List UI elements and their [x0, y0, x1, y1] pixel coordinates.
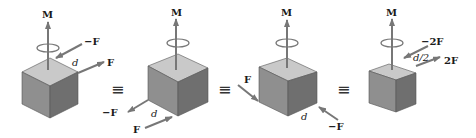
panel-3: M F −F d	[238, 7, 343, 132]
cube	[148, 54, 208, 116]
moment-label: M	[171, 7, 182, 18]
moment-label: M	[386, 7, 397, 18]
panel-2: M −F F d	[102, 7, 208, 135]
force-label-neg: −F	[102, 107, 117, 118]
moment-arrow	[381, 19, 403, 70]
force-label-neg: −F	[328, 121, 343, 132]
panel-1: M −F F d	[22, 9, 114, 118]
force-arrow-neg	[56, 44, 82, 58]
force-label-pos: F	[244, 74, 251, 85]
equivalence-symbol: ≡	[218, 80, 231, 99]
force-arrow-neg	[319, 107, 338, 120]
force-label-neg: −2F	[421, 36, 443, 47]
distance-label: d	[301, 111, 307, 122]
force-label-pos: 2F	[444, 55, 458, 66]
force-label-pos: F	[107, 57, 114, 68]
panel-4: M −2F 2F d/2	[369, 7, 458, 112]
force-arrow-pos	[238, 85, 258, 101]
force-label-neg: −F	[84, 36, 99, 47]
force-arrow-pos	[145, 117, 172, 128]
moment-label: M	[42, 9, 53, 20]
force-arrow-neg	[128, 100, 148, 112]
cube	[369, 64, 416, 112]
equivalence-symbol: ≡	[111, 80, 124, 99]
distance-label: d/2	[413, 52, 429, 63]
distance-label: d	[72, 57, 78, 68]
force-label-pos: F	[133, 124, 140, 135]
equivalence-symbol: ≡	[337, 80, 350, 99]
moment-label: M	[281, 7, 292, 18]
equivalent-couples-diagram: M −F F d ≡ M −F F d ≡	[0, 0, 476, 138]
rotation-icon	[167, 39, 189, 47]
cube	[22, 58, 78, 118]
force-arrow-pos	[78, 62, 104, 73]
distance-label: d	[151, 108, 157, 119]
